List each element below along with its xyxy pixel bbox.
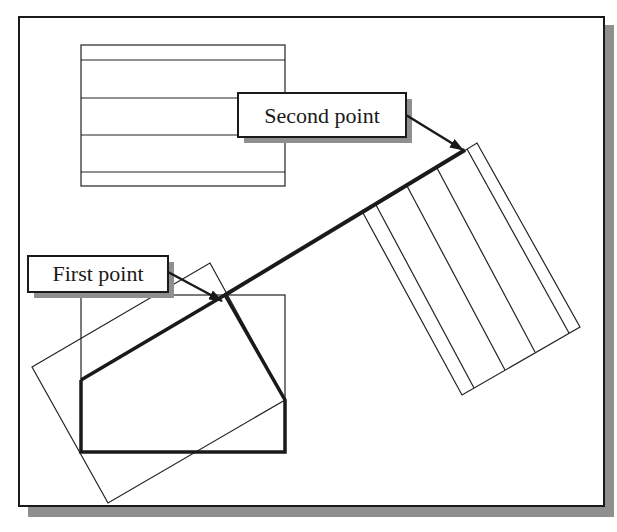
first-point-label: First point xyxy=(52,261,143,286)
second-point-label: Second point xyxy=(264,103,380,128)
diagram-canvas: Second point First point xyxy=(0,0,617,532)
